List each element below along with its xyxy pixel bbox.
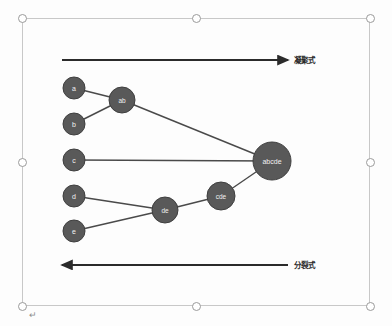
dendrogram-diagram[interactable]: abcdeabdecdeabcde <box>0 0 392 326</box>
cluster-node-circle <box>109 87 135 113</box>
paragraph-mark: ↵ <box>29 310 37 320</box>
handle-top-right[interactable] <box>366 14 375 23</box>
cluster-node-circle <box>63 113 85 135</box>
arrow-label-agglomerative: 凝聚式 <box>294 54 316 65</box>
dendrogram-link <box>122 100 272 161</box>
cluster-node-d[interactable]: d <box>63 185 85 207</box>
handle-bottom-right[interactable] <box>366 302 375 311</box>
dendrogram-link <box>74 210 165 231</box>
cluster-node-circle <box>63 220 85 242</box>
cluster-node-ab[interactable]: ab <box>109 87 135 113</box>
dendrogram-link <box>74 196 165 210</box>
handle-top-left[interactable] <box>18 14 27 23</box>
cluster-node-b[interactable]: b <box>63 113 85 135</box>
cluster-node-a[interactable]: a <box>63 77 85 99</box>
cluster-node-cde[interactable]: cde <box>207 182 235 210</box>
handle-middle-left[interactable] <box>18 158 27 167</box>
cluster-node-de[interactable]: de <box>152 197 178 223</box>
cluster-node-circle <box>152 197 178 223</box>
handle-middle-right[interactable] <box>366 158 375 167</box>
cluster-node-circle <box>63 149 85 171</box>
cluster-node-circle <box>253 142 291 180</box>
dendrogram-link <box>74 160 272 161</box>
document-canvas: abcdeabdecdeabcde 凝聚式分裂式 ↵ <box>0 0 392 326</box>
cluster-node-circle <box>207 182 235 210</box>
cluster-node-circle <box>63 185 85 207</box>
arrow-label-divisive: 分裂式 <box>294 259 316 270</box>
cluster-node-c[interactable]: c <box>63 149 85 171</box>
cluster-node-circle <box>63 77 85 99</box>
handle-bottom-center[interactable] <box>192 302 201 311</box>
cluster-node-e[interactable]: e <box>63 220 85 242</box>
handle-top-center[interactable] <box>192 14 201 23</box>
handle-bottom-left[interactable] <box>18 302 27 311</box>
cluster-node-abcde[interactable]: abcde <box>253 142 291 180</box>
